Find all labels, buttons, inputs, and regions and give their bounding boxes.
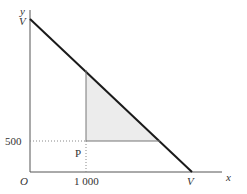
point-label: P bbox=[75, 147, 81, 159]
y-intercept-label: V bbox=[19, 15, 27, 27]
y-tick-label: 500 bbox=[5, 135, 22, 147]
budget-line bbox=[30, 19, 192, 172]
origin-label: O bbox=[20, 175, 28, 187]
x-intercept-label: V bbox=[187, 175, 195, 187]
x-tick-label: 1 000 bbox=[74, 175, 99, 187]
x-axis-label: x bbox=[225, 171, 231, 183]
budget-diagram: y V 500 P O 1 000 V x bbox=[0, 0, 247, 194]
